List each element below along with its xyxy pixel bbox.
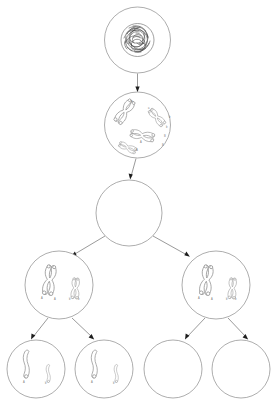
svg-text:A: A	[41, 296, 43, 300]
cell-prophase: a a b b B B A A	[105, 92, 172, 158]
cell-membrane	[105, 7, 171, 73]
svg-text:b: b	[169, 115, 171, 119]
daughter-cell-right: A A b b	[182, 251, 250, 319]
arrowhead-icon	[129, 174, 133, 180]
cell-membrane	[7, 340, 65, 398]
svg-text:A: A	[211, 297, 213, 301]
arrow-cell5-to-cell8	[185, 318, 205, 339]
svg-text:A: A	[136, 148, 138, 152]
cell-membrane	[182, 251, 250, 319]
svg-text:A: A	[23, 380, 25, 384]
svg-text:A: A	[140, 140, 142, 144]
daughter-cell-left: A A b b	[25, 251, 93, 319]
cell-membrane	[96, 180, 162, 246]
cell-membrane	[144, 340, 202, 398]
arrow-cell4-to-cell6	[31, 318, 48, 340]
cell-division-diagram: a a b b B B A A A A b b	[0, 0, 277, 399]
arrow-cell5-to-cell9	[228, 318, 248, 339]
svg-text:A: A	[198, 296, 200, 300]
arrow-cell2-to-cell3	[129, 159, 136, 180]
grand-daughter-cell-4	[212, 340, 270, 398]
arrowhead-icon	[135, 87, 139, 93]
svg-text:A: A	[91, 380, 93, 384]
cell-membrane	[25, 251, 93, 319]
grand-daughter-cell-3	[144, 340, 202, 398]
cell-membrane	[212, 340, 270, 398]
grand-daughter-cell-1: A b	[7, 340, 65, 398]
arrow-cell3-to-cell5	[153, 236, 190, 257]
svg-text:B: B	[164, 134, 166, 138]
cell-membrane	[75, 340, 133, 398]
arrow-cell1-to-cell2	[135, 74, 139, 93]
svg-text:A: A	[54, 297, 56, 301]
grand-daughter-cell-2: A b	[75, 340, 133, 398]
arrow-cell4-to-cell7	[72, 318, 94, 339]
svg-text:B: B	[162, 143, 164, 147]
arrowhead-icon	[243, 334, 249, 339]
cell-empty-large	[96, 180, 162, 246]
diagram-canvas: a a b b B B A A A A b b	[0, 0, 277, 399]
cell-parent-cell	[105, 7, 171, 73]
arrowhead-icon	[184, 252, 190, 257]
arrow-cell3-to-cell4	[71, 236, 105, 256]
arrowhead-icon	[185, 334, 190, 340]
